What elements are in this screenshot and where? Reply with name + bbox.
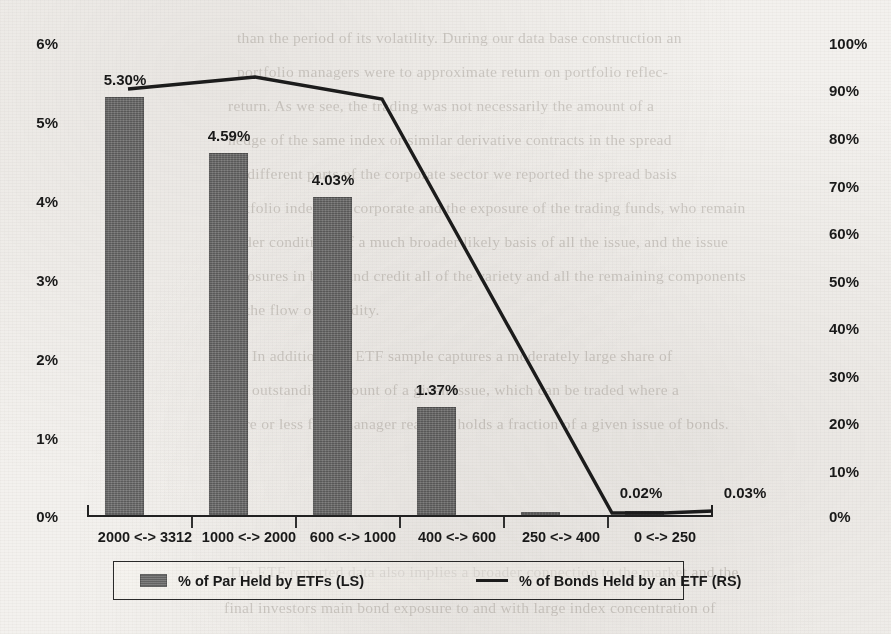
right-axis-tick-80: 80% xyxy=(829,130,859,147)
x-axis-tick-4 xyxy=(503,517,505,528)
right-axis-tick-70: 70% xyxy=(829,178,859,195)
right-axis-tick-60: 60% xyxy=(829,225,859,242)
chart-legend: % of Par Held by ETFs (LS) % of Bonds He… xyxy=(113,561,684,600)
legend-label-bars: % of Par Held by ETFs (LS) xyxy=(178,573,364,589)
right-axis-tick-100: 100% xyxy=(829,35,867,52)
x-axis-tick-1 xyxy=(191,517,193,528)
chart: 6% 5% 4% 3% 2% 1% 0% 100% 90% 80% 70% 60… xyxy=(0,0,891,634)
bar-600-1000[interactable] xyxy=(313,197,352,515)
x-axis-tick-5 xyxy=(607,517,609,528)
left-axis-tick-2: 2% xyxy=(6,351,58,368)
right-axis-tick-20: 20% xyxy=(829,415,859,432)
left-axis-tick-5: 5% xyxy=(6,114,58,131)
category-label-0-250: 0 <-> 250 xyxy=(590,529,740,545)
x-axis-right-cap xyxy=(711,505,713,517)
right-axis-tick-30: 30% xyxy=(829,368,859,385)
right-axis-tick-0: 0% xyxy=(829,508,851,525)
bar-value-250-400: 0.02% xyxy=(600,484,682,501)
x-axis-tick-2 xyxy=(295,517,297,528)
bar-2000-3312[interactable] xyxy=(105,97,144,515)
bar-value-1000-2000: 4.59% xyxy=(188,127,270,144)
right-axis-tick-40: 40% xyxy=(829,320,859,337)
legend-item-bars[interactable]: % of Par Held by ETFs (LS) xyxy=(140,573,364,589)
x-axis-left-cap xyxy=(87,505,89,517)
x-axis-tick-3 xyxy=(399,517,401,528)
bar-value-0-250: 0.03% xyxy=(704,484,786,501)
bar-1000-2000[interactable] xyxy=(209,153,248,515)
right-axis-tick-90: 90% xyxy=(829,82,859,99)
legend-label-line: % of Bonds Held by an ETF (RS) xyxy=(519,573,741,589)
legend-line-swatch-icon xyxy=(476,579,508,582)
bar-value-400-600: 1.37% xyxy=(396,381,478,398)
legend-item-line[interactable]: % of Bonds Held by an ETF (RS) xyxy=(476,573,741,589)
left-axis-tick-3: 3% xyxy=(6,272,58,289)
left-axis-tick-0: 0% xyxy=(6,508,58,525)
right-axis-tick-50: 50% xyxy=(829,273,859,290)
left-axis-tick-1: 1% xyxy=(6,430,58,447)
bar-value-600-1000: 4.03% xyxy=(292,171,374,188)
right-axis-tick-10: 10% xyxy=(829,463,859,480)
left-axis-tick-6: 6% xyxy=(6,35,58,52)
legend-bar-swatch-icon xyxy=(140,574,167,587)
bar-value-2000-3312: 5.30% xyxy=(84,71,166,88)
bar-400-600[interactable] xyxy=(417,407,456,515)
left-axis-tick-4: 4% xyxy=(6,193,58,210)
